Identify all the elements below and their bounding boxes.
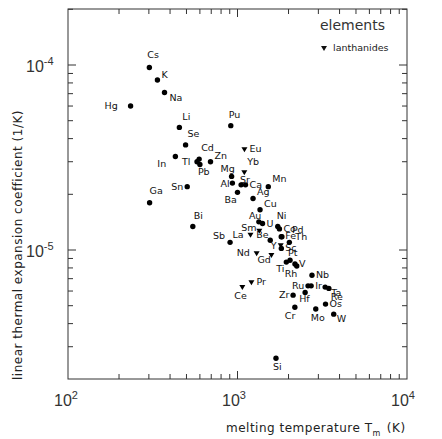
- point-label-mn: Mn: [272, 173, 286, 184]
- x-tick-1000: 103: [222, 389, 246, 409]
- data-point-zn: [208, 159, 213, 164]
- y-axis-title: linear thermal expansion coefficient (1/…: [11, 110, 25, 380]
- point-label-cs: Cs: [147, 49, 159, 60]
- data-point-li: [177, 125, 182, 130]
- data-point-zr: [290, 292, 295, 297]
- point-label-na: Na: [170, 92, 183, 103]
- point-label-cd: Cd: [201, 142, 214, 153]
- data-point-pr: [248, 280, 254, 285]
- point-label-in: In: [157, 158, 166, 169]
- data-point-eu: [241, 147, 247, 152]
- point-label-bi: Bi: [194, 210, 203, 221]
- point-label-hg: Hg: [105, 100, 118, 111]
- data-point-co: [277, 226, 282, 231]
- point-label-k: K: [161, 69, 168, 80]
- point-label-th: Th: [294, 231, 307, 242]
- data-point-sn: [185, 184, 190, 189]
- point-label-y: Y: [270, 240, 277, 251]
- point-label-zn: Zn: [215, 150, 228, 161]
- scatter-plot: CsKNaHgLiSeCdZnTlPbInSnGaBiSbPuMgAlSrCaB…: [0, 0, 442, 439]
- data-point-cs: [147, 65, 152, 70]
- x-axis-title: melting temperature Tm(K): [226, 421, 406, 438]
- data-point-u: [260, 221, 265, 226]
- legend-entry-lanthanides: lanthanides: [333, 42, 389, 53]
- point-label-eu: Eu: [249, 143, 261, 154]
- x-tick-10000: 104: [391, 389, 415, 409]
- point-label-gd: Gd: [257, 254, 270, 265]
- point-label-sb: Sb: [213, 230, 225, 241]
- data-point-cr: [292, 305, 297, 310]
- point-label-ce: Ce: [234, 290, 247, 301]
- point-label-la: La: [232, 229, 243, 240]
- point-label-hf: Hf: [299, 293, 310, 304]
- point-label-pb: Pb: [198, 166, 210, 177]
- data-point-nb: [309, 273, 314, 278]
- data-point-w: [331, 311, 336, 316]
- point-label-ru: Ru: [292, 280, 304, 291]
- point-label-li: Li: [182, 111, 190, 122]
- point-label-au: Au: [249, 210, 262, 221]
- point-label-ni: Ni: [277, 210, 287, 221]
- data-point-os: [323, 301, 328, 306]
- y-tick-1e-5: 10-5: [26, 240, 54, 260]
- point-label-cr: Cr: [285, 310, 296, 321]
- point-label-u: U: [267, 218, 274, 229]
- point-label-ir: Ir: [315, 280, 322, 291]
- data-point-k: [155, 77, 160, 82]
- data-point-re: [326, 286, 331, 291]
- data-point-se: [183, 142, 188, 147]
- point-label-cu: Cu: [264, 198, 277, 209]
- data-point-bi: [190, 224, 195, 229]
- point-label-nb: Nb: [316, 269, 329, 280]
- data-point-na: [162, 90, 167, 95]
- point-label-rh: Rh: [285, 268, 298, 279]
- data-point-pd: [279, 234, 284, 239]
- point-label-tl: Tl: [181, 156, 190, 167]
- point-label-se: Se: [188, 128, 200, 139]
- point-label-pt: Pt: [288, 247, 298, 258]
- data-point-ag: [250, 196, 255, 201]
- point-label-os: Os: [330, 298, 342, 309]
- point-label-mg: Mg: [221, 163, 235, 174]
- legend-title: elements: [320, 17, 385, 33]
- data-point-si: [273, 356, 278, 361]
- point-label-ag: Ag: [257, 186, 270, 197]
- data-point-sb: [227, 240, 232, 245]
- data-point-ir: [308, 283, 313, 288]
- data-points: CsKNaHgLiSeCdZnTlPbInSnGaBiSbPuMgAlSrCaB…: [105, 49, 347, 372]
- data-point-mg: [229, 174, 234, 179]
- y-tick-1e-4: 10-4: [26, 55, 54, 75]
- legend: elements lanthanides: [320, 17, 389, 53]
- point-label-v: V: [299, 258, 306, 269]
- point-label-al: Al: [220, 178, 229, 189]
- point-label-zr: Zr: [279, 289, 290, 300]
- data-point-al: [230, 180, 235, 185]
- point-label-nd: Nd: [237, 247, 250, 258]
- data-point-hg: [128, 103, 133, 108]
- data-point-in: [173, 154, 178, 159]
- point-label-sn: Sn: [171, 181, 183, 192]
- point-label-ga: Ga: [150, 185, 163, 196]
- point-label-si: Si: [273, 361, 282, 372]
- data-point-th: [287, 240, 292, 245]
- triangle-down-icon: [321, 46, 327, 51]
- point-label-pu: Pu: [229, 109, 241, 120]
- data-point-mo: [313, 306, 318, 311]
- point-label-yb: Yb: [246, 156, 259, 167]
- point-label-mo: Mo: [311, 312, 325, 323]
- point-label-ti: Ti: [275, 263, 284, 274]
- data-point-la: [247, 233, 253, 238]
- data-point-pu: [228, 123, 233, 128]
- point-label-w: W: [337, 313, 347, 324]
- data-point-ca: [243, 182, 248, 187]
- data-point-ga: [147, 200, 152, 205]
- point-label-pr: Pr: [256, 276, 266, 287]
- x-tick-100: 102: [54, 389, 78, 409]
- point-label-ba: Ba: [225, 194, 237, 205]
